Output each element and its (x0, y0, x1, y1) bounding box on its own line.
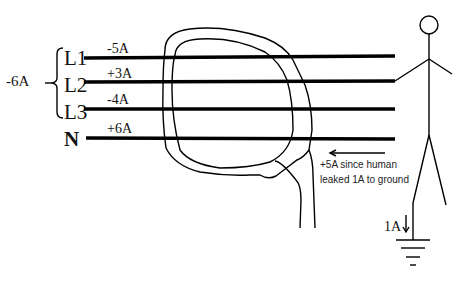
wire-l1 (84, 56, 395, 58)
group-current-label: -6A (6, 73, 29, 89)
current-label-n: +6A (107, 121, 133, 136)
toroid-lead (275, 161, 301, 228)
conductor-label-l1: L1 (64, 46, 87, 70)
conductor-label-l3: L3 (64, 100, 87, 124)
current-label-l3: -4A (107, 92, 130, 107)
annotation-line1: +5A since human (320, 159, 397, 170)
current-label-l2: +3A (107, 66, 133, 81)
current-label-l1: -5A (107, 41, 130, 56)
residual-current-diagram: -6A L1 L2 L3 N -5A +3A -4A +6A +5A since… (0, 0, 476, 283)
ground-symbol-icon (396, 240, 430, 265)
conductor-label-n: N (64, 127, 79, 151)
down-arrow-icon (403, 215, 409, 232)
group-brace (52, 48, 63, 118)
wire-n (86, 138, 395, 139)
ground-current-label: 1A (384, 219, 402, 234)
wire-l2 (84, 81, 395, 82)
annotation-line2: leaked 1A to ground (320, 174, 409, 185)
conductor-label-l2: L2 (64, 73, 87, 97)
